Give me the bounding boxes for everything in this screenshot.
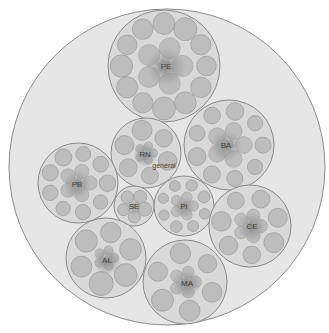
leaf-circle[interactable]	[110, 55, 132, 77]
leaf-circle[interactable]	[252, 190, 270, 208]
leaf-circle[interactable]	[191, 35, 211, 55]
leaf-circle[interactable]	[75, 230, 97, 252]
leaf-circle[interactable]	[158, 193, 168, 203]
leaf-circle[interactable]	[148, 262, 167, 281]
group-label-pb: PB	[72, 180, 83, 189]
leaf-circle[interactable]	[56, 201, 70, 215]
group-label-rn: RN	[139, 150, 151, 159]
group-pe[interactable]: PE	[108, 10, 220, 122]
leaf-circle[interactable]	[198, 254, 217, 273]
leaf-circle[interactable]	[115, 136, 134, 155]
leaf-circle[interactable]	[132, 120, 152, 140]
leaf-circle[interactable]	[212, 212, 232, 232]
leaf-circle[interactable]	[93, 156, 109, 172]
leaf-circle[interactable]	[43, 185, 58, 200]
group-label-ma: MA	[181, 279, 194, 288]
leaf-circle[interactable]	[191, 77, 212, 98]
leaf-circle[interactable]	[117, 35, 137, 55]
leaf-circle[interactable]	[189, 125, 205, 141]
leaf-circle[interactable]	[264, 233, 284, 253]
group-pi[interactable]: PI	[154, 176, 214, 236]
leaf-circle[interactable]	[141, 167, 158, 184]
leaf-circle[interactable]	[152, 289, 174, 311]
leaf-circle[interactable]	[75, 204, 90, 219]
leaf-circle[interactable]	[153, 13, 175, 35]
circle-packing-diagram: PEBARNgeneralPBSEPICEALMA	[0, 0, 329, 333]
leaf-circle[interactable]	[203, 166, 220, 183]
leaf-circle[interactable]	[268, 208, 287, 227]
leaf-circle[interactable]	[174, 92, 196, 114]
group-al[interactable]: AL	[66, 218, 146, 298]
group-rn[interactable]: RNgeneral	[111, 118, 181, 188]
leaf-circle[interactable]	[186, 180, 197, 191]
leaf-circle[interactable]	[101, 222, 121, 242]
leaf-circle[interactable]	[120, 239, 142, 261]
leaf-circle[interactable]	[226, 103, 244, 121]
leaf-circle[interactable]	[89, 272, 113, 296]
leaf-circle[interactable]	[227, 192, 244, 209]
leaf-circle[interactable]	[99, 175, 116, 192]
leaf-circle[interactable]	[199, 208, 210, 219]
group-ce[interactable]: CE	[209, 185, 291, 267]
leaf-circle[interactable]	[117, 77, 138, 98]
group-ba[interactable]: BA	[184, 100, 274, 190]
leaf-circle[interactable]	[170, 243, 190, 263]
leaf-circle[interactable]	[188, 221, 199, 232]
group-label-ba: BA	[221, 141, 232, 150]
leaf-circle[interactable]	[42, 165, 58, 181]
group-sublabel-rn: general	[152, 162, 176, 170]
leaf-circle[interactable]	[219, 236, 238, 255]
leaf-circle[interactable]	[55, 149, 72, 166]
leaf-circle[interactable]	[155, 130, 173, 148]
leaf-circle[interactable]	[227, 170, 243, 186]
group-label-al: AL	[102, 256, 112, 265]
leaf-circle[interactable]	[159, 210, 169, 220]
leaf-circle[interactable]	[174, 18, 197, 41]
leaf-circle[interactable]	[133, 93, 153, 113]
group-ma[interactable]: MA	[143, 240, 227, 324]
leaf-circle[interactable]	[71, 256, 92, 277]
group-label-pi: PI	[180, 202, 188, 211]
leaf-circle[interactable]	[248, 116, 263, 131]
group-label-pe: PE	[161, 62, 172, 71]
group-label-se: SE	[129, 202, 140, 211]
leaf-circle[interactable]	[202, 282, 222, 302]
leaf-circle[interactable]	[171, 221, 183, 233]
leaf-circle[interactable]	[153, 97, 176, 120]
leaf-circle[interactable]	[93, 195, 107, 209]
group-label-ce: CE	[246, 222, 257, 231]
leaf-circle[interactable]	[76, 147, 91, 162]
leaf-circle[interactable]	[255, 137, 271, 153]
leaf-circle[interactable]	[132, 19, 153, 40]
group-pb[interactable]: PB	[38, 143, 118, 223]
leaf-circle[interactable]	[247, 159, 262, 174]
leaf-circle[interactable]	[179, 300, 200, 321]
leaf-circle[interactable]	[243, 246, 261, 264]
leaf-circle[interactable]	[170, 181, 181, 192]
leaf-circle[interactable]	[197, 56, 217, 76]
leaf-circle[interactable]	[188, 148, 206, 166]
leaf-circle[interactable]	[204, 107, 221, 124]
leaf-circle[interactable]	[198, 191, 210, 203]
